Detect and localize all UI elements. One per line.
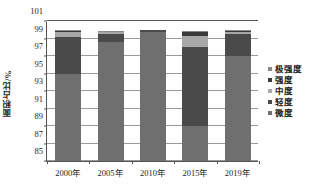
y-axis-tick-label: 91 bbox=[35, 94, 44, 104]
x-axis-tick-mark bbox=[217, 161, 218, 164]
x-axis-tick-mark bbox=[132, 161, 133, 164]
bar-segment-轻度 bbox=[55, 37, 81, 74]
bar-2005年 bbox=[98, 31, 124, 161]
plot-area: 8587899193959799101 2000年2005年2010年2015年… bbox=[46, 22, 258, 162]
y-axis-tick-label: 95 bbox=[35, 59, 44, 69]
bar-segment-微度 bbox=[55, 74, 81, 162]
bar-segment-微度 bbox=[225, 56, 251, 161]
y-axis-tick-label: 97 bbox=[35, 41, 44, 51]
bar-segment-中度 bbox=[182, 36, 208, 47]
y-axis-tick-label: 93 bbox=[35, 76, 44, 86]
y-axis-tick-label: 99 bbox=[35, 24, 44, 34]
legend-item-极强度[interactable]: 极强度 bbox=[268, 64, 302, 74]
x-axis-tick-mark bbox=[259, 161, 260, 164]
legend: 极强度强度中度轻度微度 bbox=[268, 64, 302, 118]
x-axis-tick-label: 2010年 bbox=[140, 166, 166, 178]
x-axis-tick-label: 2000年 bbox=[55, 166, 81, 178]
bar-segment-微度 bbox=[182, 126, 208, 161]
legend-item-轻度[interactable]: 轻度 bbox=[268, 97, 302, 107]
bar-segment-微度 bbox=[98, 42, 124, 161]
bar-series-layer bbox=[47, 22, 258, 161]
legend-item-label: 强度 bbox=[275, 76, 293, 85]
stacked-bar-chart: 面积占比/% 8587899193959799101 2000年2005年201… bbox=[0, 0, 320, 188]
gridline bbox=[47, 20, 258, 21]
legend-item-label: 轻度 bbox=[275, 98, 293, 107]
legend-item-中度[interactable]: 中度 bbox=[268, 86, 302, 96]
x-axis-tick-label: 2005年 bbox=[98, 166, 124, 178]
legend-item-label: 极强度 bbox=[275, 65, 302, 74]
legend-swatch-icon bbox=[268, 111, 272, 115]
x-axis-tick-label: 2015年 bbox=[182, 166, 208, 178]
bar-segment-轻度 bbox=[98, 34, 124, 42]
x-axis-tick-mark bbox=[47, 161, 48, 164]
bar-segment-轻度 bbox=[182, 47, 208, 126]
bar-segment-轻度 bbox=[225, 34, 251, 56]
legend-item-微度[interactable]: 微度 bbox=[268, 108, 302, 118]
bar-segment-微度 bbox=[140, 32, 166, 162]
bar-2019年 bbox=[225, 30, 251, 161]
legend-item-label: 微度 bbox=[275, 109, 293, 118]
legend-item-强度[interactable]: 强度 bbox=[268, 75, 302, 85]
y-axis-title: 面积占比/% bbox=[1, 46, 15, 142]
y-axis-tick-label: 101 bbox=[30, 6, 43, 16]
legend-swatch-icon bbox=[268, 67, 272, 71]
x-axis-tick-mark bbox=[174, 161, 175, 164]
legend-swatch-icon bbox=[268, 89, 272, 93]
y-axis-tick-label: 85 bbox=[35, 146, 44, 156]
legend-swatch-icon bbox=[268, 100, 272, 104]
y-axis-tick-label: 87 bbox=[35, 129, 44, 139]
legend-swatch-icon bbox=[268, 78, 272, 82]
x-axis-tick-label: 2019年 bbox=[225, 166, 251, 178]
bar-2000年 bbox=[55, 30, 81, 161]
legend-item-label: 中度 bbox=[275, 87, 293, 96]
x-axis-tick-mark bbox=[89, 161, 90, 164]
bar-2015年 bbox=[182, 31, 208, 161]
bar-2010年 bbox=[140, 30, 166, 161]
y-axis-tick-label: 89 bbox=[35, 111, 44, 121]
